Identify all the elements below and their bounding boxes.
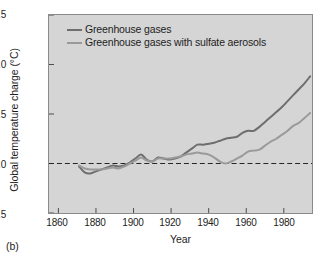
- data-series-group: [79, 76, 310, 173]
- x-tick-label: 1980: [264, 217, 304, 228]
- x-tick-label: 1960: [226, 217, 266, 228]
- legend-item: Greenhouse gases with sulfate aerosols: [67, 36, 266, 49]
- y-axis-label: Global temperature charge (°C): [8, 20, 20, 220]
- y-tick-label: -0.5: [0, 214, 6, 225]
- x-tick-label: 1920: [150, 217, 190, 228]
- legend-label: Greenhouse gases: [85, 23, 171, 36]
- legend-swatch-greenhouse-gases: [67, 29, 82, 31]
- y-tick-label: 1.0: [0, 64, 6, 75]
- legend-swatch-greenhouse-gases-sulfate: [67, 42, 82, 44]
- y-tick-label: 1.5: [0, 14, 6, 25]
- figure-panel: 1.5 1.0 0.5 0.0 -0.5 1860 1880 1900 1920…: [0, 0, 324, 269]
- x-tick-label: 1860: [37, 217, 77, 228]
- data-line: [79, 76, 310, 173]
- legend-item: Greenhouse gases: [67, 23, 266, 36]
- legend-label: Greenhouse gases with sulfate aerosols: [85, 36, 266, 49]
- x-tick-label: 1940: [188, 217, 228, 228]
- data-line: [79, 113, 310, 170]
- panel-label: (b): [6, 240, 19, 252]
- y-tick-label: 0.5: [0, 114, 6, 125]
- y-tick-label: 0.0: [0, 164, 6, 175]
- plot-area: Greenhouse gases Greenhouse gases with s…: [48, 14, 313, 214]
- x-tick-label: 1880: [75, 217, 115, 228]
- x-axis-label: Year: [48, 233, 313, 245]
- x-tick-label: 1900: [113, 217, 153, 228]
- chart-legend: Greenhouse gases Greenhouse gases with s…: [67, 23, 266, 49]
